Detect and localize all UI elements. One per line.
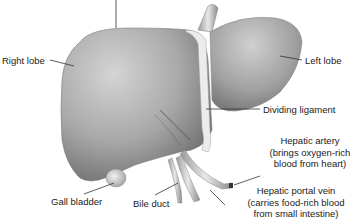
label-hepatic-artery: Hepatic artery (brings oxygen-rich blood…: [258, 135, 360, 170]
label-gall-bladder: Gall bladder: [51, 196, 102, 208]
hepatic-artery-desc-1: (brings oxygen-rich: [258, 147, 360, 159]
label-left-lobe: Left lobe: [305, 55, 341, 67]
bile-duct-leader: [155, 183, 178, 195]
left-lobe-shape: [210, 17, 302, 111]
gall-bladder-shape: [106, 169, 126, 187]
label-dividing-ligament: Dividing ligament: [263, 104, 335, 116]
label-bile-duct: Bile duct: [133, 198, 169, 210]
hepatic-artery-title: Hepatic artery: [258, 135, 360, 147]
vessels: [168, 150, 233, 203]
hepatic-artery-leader: [234, 176, 260, 185]
top-vessel: [198, 4, 218, 32]
label-hepatic-portal-vein: Hepatic portal vein (carries food-rich b…: [232, 185, 360, 220]
portal-vein-desc-1: (carries food-rich blood: [232, 197, 360, 209]
gall-bladder-leader: [84, 183, 114, 194]
label-right-lobe: Right lobe: [2, 55, 45, 67]
hepatic-artery-desc-2: blood from heart): [258, 158, 360, 170]
liver-diagram: Right lobe Left lobe Dividing ligament H…: [0, 0, 360, 221]
portal-vein-title: Hepatic portal vein: [232, 185, 360, 197]
portal-vein-desc-2: from small intestine): [232, 208, 360, 220]
portal-vein-leader: [210, 190, 225, 205]
